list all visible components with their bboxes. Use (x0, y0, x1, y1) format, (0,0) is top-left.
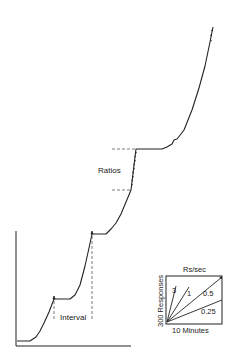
reinforcement-marker (53, 296, 55, 299)
rate-line-1 (167, 287, 189, 322)
inset-x-label: 10 Minutes (172, 326, 209, 335)
ratios-label: Ratios (98, 166, 121, 175)
reinforcement-marker (91, 231, 93, 234)
cumulative-record-line (17, 27, 213, 341)
rate-label-1: 1 (187, 289, 191, 298)
inset-title: Rs/sec (183, 265, 206, 274)
interval-label: Interval (60, 313, 86, 322)
rate-label-0.25: 0.25 (201, 307, 216, 316)
rate-label-0.5: 0.5 (203, 289, 213, 298)
inset-y-label: 300 Responses (156, 275, 165, 327)
ratio-hatch-marks (131, 30, 213, 185)
rate-label-3: 3 (172, 286, 176, 295)
